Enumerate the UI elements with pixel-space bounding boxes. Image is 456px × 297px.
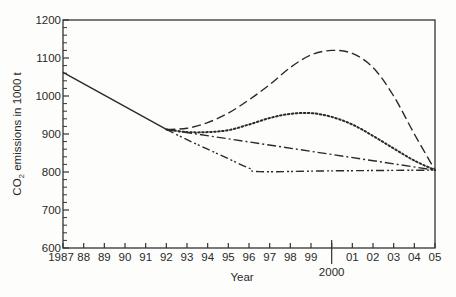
y-axis-title: CO2 emissions in 1000 t [11,72,26,196]
x-tick-label: 99 [305,251,318,263]
x-tick-label: 97 [263,251,276,263]
x-tick-label: 98 [284,251,297,263]
series-group [63,50,435,171]
y-tick-label: 900 [42,128,61,140]
x-tick-label: 93 [181,251,194,263]
x-tick-label: 92 [160,251,173,263]
annotation-2000: 2000 [319,266,345,278]
y-axis: 600700800900100011001200 [35,14,69,254]
line-chart: 600700800900100011001200 198788899091929… [0,0,456,297]
y-tick-label: 700 [42,204,61,216]
x-tick-label: 04 [408,251,421,263]
series-line-1 [166,50,435,170]
x-tick-label: 89 [98,251,111,263]
y-tick-label: 1200 [35,14,61,26]
x-tick-label: 02 [367,251,380,263]
x-tick-label: 94 [201,251,214,263]
series-line-2 [166,113,435,170]
series-line-0 [63,72,166,129]
y-tick-label: 1000 [35,90,61,102]
y-tick-label: 800 [42,166,61,178]
x-tick-label: 88 [77,251,90,263]
x-axis-title: Year [230,271,253,283]
x-tick-label: 1987 [48,251,74,263]
x-tick-label: 96 [243,251,256,263]
x-tick-label: 91 [139,251,152,263]
x-tick-label: 03 [387,251,400,263]
x-tick-label: 90 [119,251,132,263]
plot-frame [63,20,435,248]
x-tick-label: 01 [346,251,359,263]
y-tick-label: 1100 [36,52,61,64]
x-tick-label: 95 [222,251,235,263]
x-tick-label: 05 [429,251,442,263]
x-axis: 19878889909192939495969798990102030405 [48,243,441,263]
